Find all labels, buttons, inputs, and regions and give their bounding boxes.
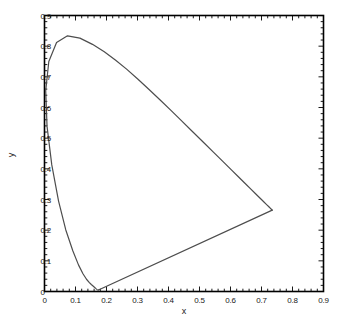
y-axis-title: y	[6, 153, 16, 158]
x-tick-label: 0.4	[163, 296, 174, 305]
chromaticity-diagram-figure: 00.10.20.30.40.50.60.70.80.9 00.10.20.30…	[0, 0, 343, 328]
x-tick-label: 0.6	[225, 296, 236, 305]
x-axis-title: x	[182, 306, 187, 316]
x-tick-label: 0.2	[101, 296, 112, 305]
x-tick-label: 0.8	[287, 296, 298, 305]
x-tick-label: 0.9	[318, 296, 329, 305]
x-tick-label: 0.1	[70, 296, 81, 305]
x-tick-label: 0	[42, 296, 46, 305]
x-tick-label: 0.3	[132, 296, 143, 305]
x-tick-label: 0.5	[194, 296, 205, 305]
x-tick-label: 0.7	[256, 296, 267, 305]
